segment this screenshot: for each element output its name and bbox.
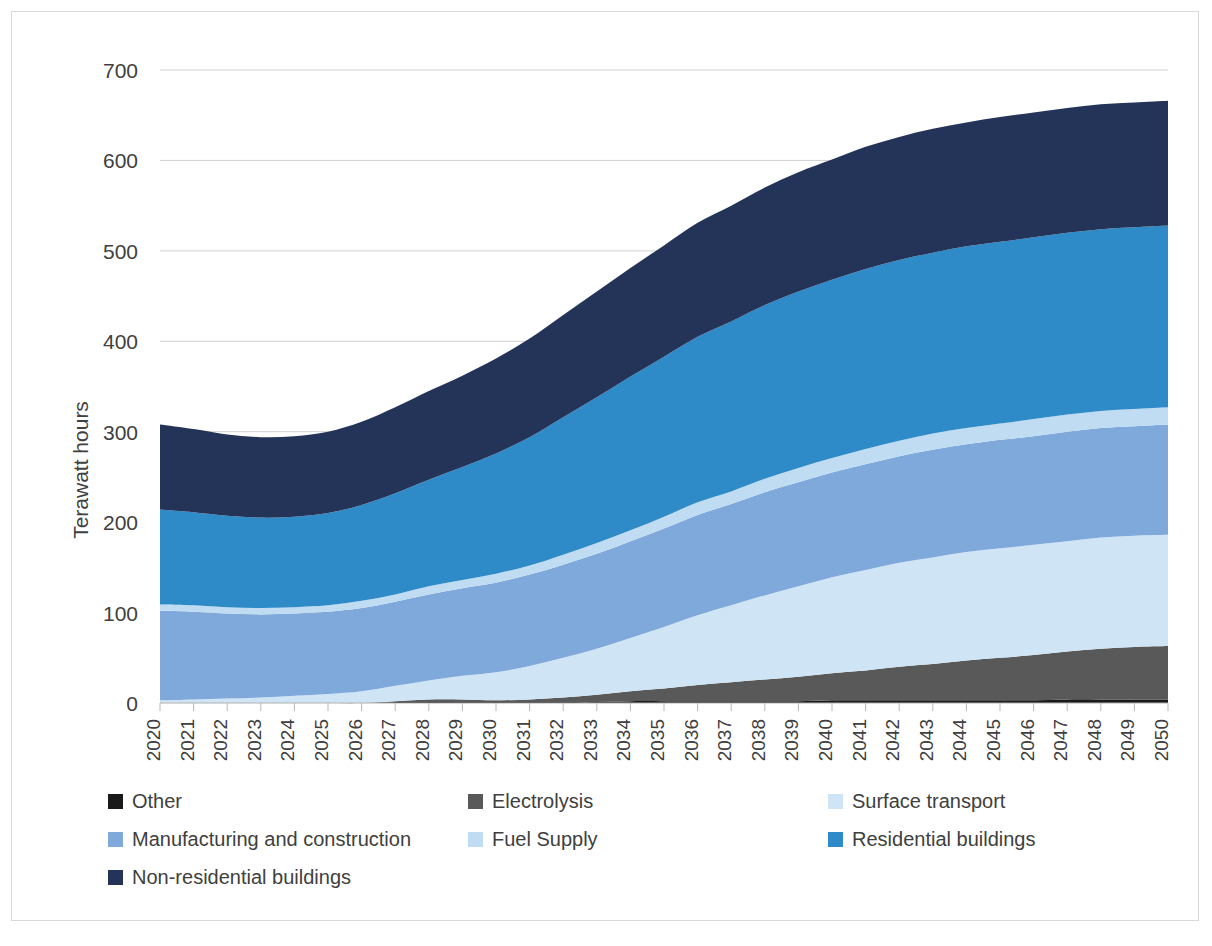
legend-swatch-icon — [828, 832, 843, 847]
y-axis-tick-label: 500 — [103, 240, 138, 263]
legend-item-residential-buildings[interactable]: Residential buildings — [828, 828, 1158, 851]
area-series-group — [160, 101, 1168, 703]
legend-item-label: Electrolysis — [492, 790, 593, 813]
x-axis-tick-label: 2021 — [177, 719, 198, 761]
x-axis-tick-label: 2022 — [210, 719, 231, 761]
x-axis-tick-label: 2034 — [613, 719, 634, 762]
x-axis-tick-label: 2029 — [445, 719, 466, 761]
x-axis-tick-label: 2041 — [849, 719, 870, 761]
x-axis-tick-label: 2046 — [1017, 719, 1038, 761]
x-axis-tick-label: 2027 — [378, 719, 399, 761]
legend-swatch-icon — [468, 832, 483, 847]
legend-item-electrolysis[interactable]: Electrolysis — [468, 790, 828, 813]
legend-swatch-icon — [468, 794, 483, 809]
legend-item-surface-transport[interactable]: Surface transport — [828, 790, 1158, 813]
x-axis-tick-label: 2026 — [345, 719, 366, 761]
x-axis-tick-label: 2049 — [1117, 719, 1138, 761]
x-axis-tick-label: 2037 — [714, 719, 735, 761]
x-axis-tick-label: 2040 — [815, 719, 836, 761]
x-axis-tick-label: 2030 — [479, 719, 500, 761]
stacked-area-chart: 7006005004003002001000 20202021202220232… — [0, 0, 1212, 946]
x-axis-tick-label: 2050 — [1151, 719, 1172, 761]
x-axis-tick-label: 2044 — [949, 719, 970, 762]
x-axis-tick-label: 2042 — [882, 719, 903, 761]
x-axis-tick-label: 2033 — [580, 719, 601, 761]
x-axis-tick-label: 2043 — [916, 719, 937, 761]
legend-item-label: Surface transport — [852, 790, 1005, 813]
x-axis-tick-label: 2048 — [1084, 719, 1105, 761]
y-axis-tick-label: 600 — [103, 149, 138, 172]
legend-item-fuel-supply[interactable]: Fuel Supply — [468, 828, 828, 851]
x-axis-tick-label: 2038 — [748, 719, 769, 761]
legend-item-other[interactable]: Other — [108, 790, 468, 813]
x-axis-tick-label: 2023 — [244, 719, 265, 761]
x-axis-tick-labels: 2020202120222023202420252026202720282029… — [143, 719, 1172, 762]
y-axis-tick-label: 400 — [103, 330, 138, 353]
x-axis-tick-label: 2031 — [513, 719, 534, 761]
x-axis-tick-label: 2020 — [143, 719, 164, 761]
legend-item-label: Manufacturing and construction — [132, 828, 411, 851]
legend-swatch-icon — [108, 794, 123, 809]
x-axis-tick-label: 2047 — [1050, 719, 1071, 761]
x-axis-tick-label: 2024 — [277, 719, 298, 762]
axis-lines — [160, 703, 1168, 711]
y-axis-title: Terawatt hours — [69, 401, 92, 539]
x-axis-tick-label: 2036 — [681, 719, 702, 761]
x-axis-tick-label: 2039 — [781, 719, 802, 761]
legend-swatch-icon — [828, 794, 843, 809]
legend-item-label: Non-residential buildings — [132, 866, 351, 889]
x-axis-tick-label: 2025 — [311, 719, 332, 761]
legend-swatch-icon — [108, 870, 123, 885]
x-axis-tick-label: 2028 — [412, 719, 433, 761]
legend-row: Manufacturing and construction Fuel Supp… — [108, 820, 1168, 858]
y-axis-tick-label: 700 — [103, 59, 138, 82]
legend-item-label: Residential buildings — [852, 828, 1035, 851]
legend-row: Other Electrolysis Surface transport — [108, 782, 1168, 820]
legend-item-label: Fuel Supply — [492, 828, 598, 851]
legend-swatch-icon — [108, 832, 123, 847]
x-axis-tick-label: 2032 — [546, 719, 567, 761]
y-axis-tick-label: 300 — [103, 421, 138, 444]
legend-item-label: Other — [132, 790, 182, 813]
x-axis-tick-label: 2035 — [647, 719, 668, 761]
legend-row: Non-residential buildings — [108, 858, 1168, 896]
y-axis-tick-labels: 7006005004003002001000 — [103, 59, 138, 715]
y-axis-tick-label: 0 — [126, 692, 138, 715]
legend-item-non-residential-buildings[interactable]: Non-residential buildings — [108, 866, 468, 889]
x-axis-tick-label: 2045 — [983, 719, 1004, 761]
y-axis-title-label: Terawatt hours — [69, 401, 92, 539]
chart-legend: Other Electrolysis Surface transport Man… — [108, 782, 1168, 896]
legend-item-manufacturing-and-construction[interactable]: Manufacturing and construction — [108, 828, 468, 851]
y-axis-tick-label: 100 — [103, 602, 138, 625]
y-axis-tick-label: 200 — [103, 511, 138, 534]
